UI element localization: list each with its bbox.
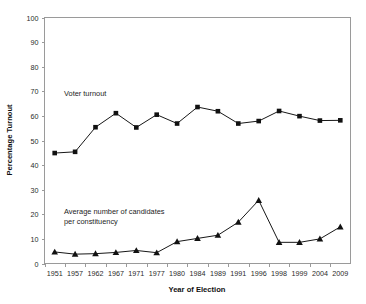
y-tick-label: 50 — [31, 137, 39, 146]
x-tick-label: 1957 — [67, 269, 83, 278]
y-axis-title: Percentage Turnout — [5, 104, 14, 176]
candidates-label-line2: per constituency — [64, 217, 118, 226]
voter-turnout-label: Voter turnout — [64, 89, 106, 98]
x-tick-label: 1998 — [271, 269, 287, 278]
y-tick-label: 10 — [31, 235, 39, 244]
x-tick-label: 1980 — [169, 269, 185, 278]
data-point-marker — [175, 121, 180, 126]
x-tick-label: 1996 — [251, 269, 267, 278]
x-tick-label: 1962 — [88, 269, 104, 278]
y-tick-label: 80 — [31, 63, 39, 72]
data-point-marker — [195, 105, 200, 110]
y-tick-label: 60 — [31, 112, 39, 121]
data-point-marker — [93, 125, 98, 130]
y-tick-label: 30 — [31, 186, 39, 195]
data-point-marker — [297, 114, 302, 119]
candidates-label-line1: Average number of candidates — [64, 207, 165, 216]
data-point-marker — [73, 150, 78, 155]
data-point-marker — [154, 112, 159, 117]
y-tick-label: 20 — [31, 210, 39, 219]
data-point-marker — [256, 119, 261, 124]
y-tick-label: 40 — [31, 161, 39, 170]
chart-container: 1009080706050403020100 19511957196219671… — [0, 0, 366, 304]
data-point-marker — [277, 109, 282, 114]
data-point-marker — [338, 118, 343, 123]
x-tick-label: 2009 — [332, 269, 348, 278]
data-point-marker — [216, 109, 221, 114]
data-point-marker — [236, 121, 241, 126]
data-point-marker — [114, 111, 119, 116]
x-axis-title: Year of Election — [169, 285, 226, 294]
y-tick-label: 0 — [35, 260, 39, 269]
x-tick-label: 1984 — [190, 269, 206, 278]
x-tick-label: 1971 — [128, 269, 144, 278]
x-tick-label: 2004 — [312, 269, 328, 278]
x-tick-label: 1951 — [47, 269, 63, 278]
y-tick-label: 90 — [31, 38, 39, 47]
x-tick-label: 1989 — [210, 269, 226, 278]
x-tick-label: 1999 — [292, 269, 308, 278]
data-point-marker — [134, 125, 139, 130]
x-axis-tick-labels: 1951195719621967197119771980198419891991… — [47, 269, 349, 278]
data-point-marker — [318, 118, 323, 123]
x-tick-label: 1967 — [108, 269, 124, 278]
election-turnout-chart: 1009080706050403020100 19511957196219671… — [0, 0, 366, 304]
x-tick-label: 1977 — [149, 269, 165, 278]
data-point-marker — [52, 151, 57, 156]
y-tick-label: 70 — [31, 87, 39, 96]
y-tick-label: 100 — [27, 14, 39, 23]
x-tick-label: 1991 — [230, 269, 246, 278]
